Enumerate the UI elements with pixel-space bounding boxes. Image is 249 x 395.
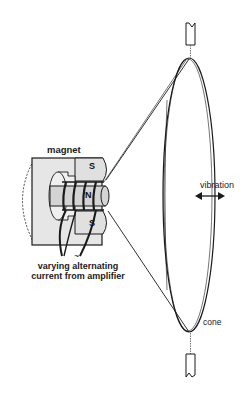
top-mount	[186, 23, 195, 58]
north-pole-label: N	[85, 190, 92, 200]
south-pole-top-label: S	[89, 161, 95, 171]
cone-label: cone	[203, 317, 221, 327]
current-label: varying alternating current from amplifi…	[30, 261, 126, 281]
ac-symbol: ~	[74, 251, 79, 261]
loudspeaker-diagram	[0, 0, 249, 395]
magnet	[23, 158, 110, 245]
magnet-label: magnet	[47, 144, 81, 155]
south-pole-bottom-label: S	[89, 218, 95, 228]
vibration-arrow	[195, 192, 225, 200]
vibration-label: vibration	[200, 180, 234, 190]
bottom-mount	[186, 333, 195, 377]
